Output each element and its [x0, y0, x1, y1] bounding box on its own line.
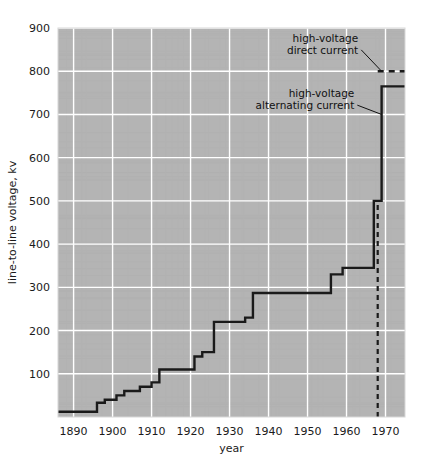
x-tick-label: 1940: [255, 425, 283, 438]
x-tick-label: 1930: [216, 425, 244, 438]
y-tick-label: 800: [29, 65, 50, 78]
x-axis-ticks: 189019001910192019301940195019601970: [60, 425, 400, 438]
y-axis-title: line-to-line voltage, kv: [6, 160, 19, 284]
hvdc-annotation-text: high-voltagedirect current: [287, 32, 358, 56]
x-tick-label: 1900: [99, 425, 127, 438]
x-tick-label: 1890: [60, 425, 88, 438]
y-tick-label: 400: [29, 238, 50, 251]
annot-line: high-voltage: [293, 32, 359, 44]
y-tick-label: 200: [29, 325, 50, 338]
x-tick-label: 1950: [294, 425, 322, 438]
annot-line: alternating current: [256, 99, 355, 111]
x-tick-label: 1910: [138, 425, 166, 438]
annot-line: high-voltage: [289, 87, 355, 99]
y-tick-label: 100: [29, 368, 50, 381]
annot-line: direct current: [287, 44, 358, 56]
y-axis-ticks: 100200300400500600700800900: [29, 22, 50, 381]
chart-figure: 1002003004005006007008009001890190019101…: [0, 0, 422, 459]
x-axis-title: year: [219, 442, 244, 455]
x-tick-label: 1920: [177, 425, 205, 438]
voltage-history-chart: 1002003004005006007008009001890190019101…: [0, 0, 422, 459]
x-tick-label: 1960: [333, 425, 361, 438]
y-tick-label: 500: [29, 195, 50, 208]
y-tick-label: 300: [29, 281, 50, 294]
y-tick-label: 600: [29, 152, 50, 165]
y-tick-label: 900: [29, 22, 50, 35]
x-tick-label: 1970: [372, 425, 400, 438]
y-tick-label: 700: [29, 108, 50, 121]
